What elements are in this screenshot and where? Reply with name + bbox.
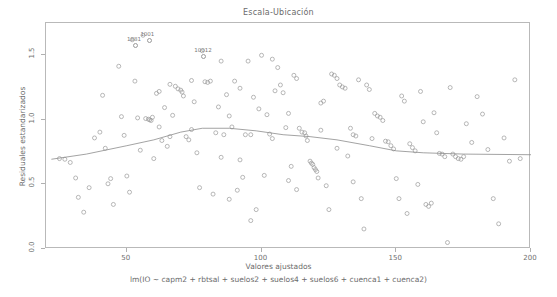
scatter-point [87,186,91,190]
scatter-point [138,148,142,152]
scatter-point [491,197,495,201]
scatter-point [408,142,412,146]
scatter-point [435,131,439,135]
scatter-point [238,86,242,90]
scatter-point [219,59,223,63]
scatter-point [76,195,80,199]
scatter-point [464,122,468,126]
scatter-point [101,93,105,97]
scatter-point [260,53,264,57]
x-tick-mark [395,248,396,252]
scatter-point [513,78,517,82]
y-tick-mark [41,54,45,55]
scatter-point [462,155,466,159]
scatter-point [265,113,269,117]
scatter-point [106,182,110,186]
scatter-point [397,197,401,201]
scatter-point [233,79,237,83]
x-tick-label: 200 [515,254,545,262]
scatter-point [109,177,113,181]
scatter-point [187,138,191,142]
scatter-point [362,227,366,231]
scatter-point [163,106,167,110]
scatter-point [357,78,361,82]
loess-smooth-line [51,128,531,159]
scatter-point [507,159,511,163]
y-tick-mark [41,248,45,249]
scatter-point [297,126,301,130]
scatter-point [82,210,86,214]
scatter-points-layer [57,33,522,244]
y-tick-mark [41,183,45,184]
y-tick-label: 0.0 [28,236,36,258]
x-axis-label: Valores ajustados [0,262,557,271]
y-tick-mark [41,119,45,120]
y-tick-label: 1.0 [28,107,36,129]
scatter-point [400,94,404,98]
scatter-point [405,211,409,215]
outlier-label: 10012 [194,47,212,53]
x-tick-mark [126,248,127,252]
scatter-point [287,179,291,183]
y-axis-label: Residuales estandarizados [18,67,27,207]
scatter-point [249,219,253,223]
scatter-point [93,136,97,140]
scatter-point [214,131,218,135]
scatter-point [98,130,102,134]
scatter-point [289,164,293,168]
plot-canvas [46,23,531,249]
scatter-point [295,188,299,192]
scatter-point [219,155,223,159]
scatter-point [168,82,172,86]
page-title: Escala-Ubicación [0,8,557,17]
scatter-point [128,190,132,194]
x-tick-label: 100 [246,254,276,262]
scale-location-plot: Escala-Ubicación 1001188110012 501001502… [0,0,557,297]
scatter-point [74,176,78,180]
scatter-point [203,80,207,84]
x-tick-mark [530,248,531,252]
scatter-point [335,77,339,81]
scatter-point [227,114,231,118]
scatter-point [111,202,115,206]
scatter-point [227,197,231,201]
scatter-point [429,201,433,205]
scatter-point [470,140,474,144]
scatter-point [448,86,452,90]
scatter-point [171,113,175,117]
scatter-point [502,136,506,140]
scatter-point [481,112,485,116]
scatter-point [295,77,299,81]
outlier-point [201,54,206,59]
scatter-point [394,177,398,181]
scatter-point [497,222,501,226]
scatter-point [281,91,285,95]
scatter-point [276,66,280,70]
scatter-point [235,188,239,192]
scatter-point [249,133,253,137]
y-tick-label: 1.5 [28,42,36,64]
scatter-point [518,157,522,161]
scatter-point [324,184,328,188]
x-tick-mark [261,248,262,252]
scatter-point [402,99,406,103]
scatter-point [195,151,199,155]
scatter-point [370,137,374,141]
scatter-point [287,111,291,115]
scatter-point [416,182,420,186]
scatter-point [365,83,369,87]
x-tick-label: 50 [111,254,141,262]
scatter-point [273,89,277,93]
scatter-point [351,180,355,184]
scatter-point [335,146,339,150]
scatter-point [327,208,331,212]
scatter-point [157,125,161,129]
scatter-point [367,88,371,92]
scatter-point [300,130,304,134]
scatter-point [122,133,126,137]
scatter-point [284,126,288,130]
scatter-point [246,59,250,63]
scatter-point [384,139,388,143]
scatter-point [136,116,140,120]
scatter-point [257,107,261,111]
